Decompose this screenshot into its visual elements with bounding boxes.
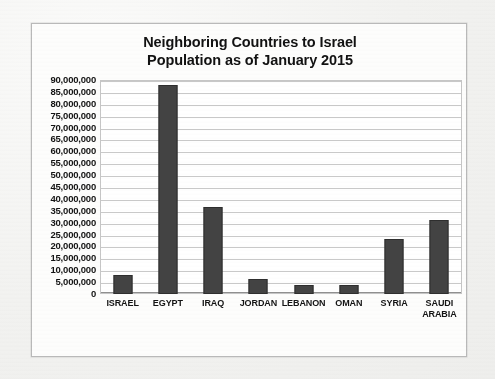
y-axis-tick-label: 25,000,000 xyxy=(32,230,96,240)
y-axis-tick-label: 75,000,000 xyxy=(32,111,96,121)
x-axis-tick-label-line: LEBANON xyxy=(281,298,326,309)
gridline xyxy=(101,224,461,225)
gridline xyxy=(101,236,461,237)
y-axis-tick-label: 5,000,000 xyxy=(32,277,96,287)
x-axis-tick-label-line: JORDAN xyxy=(236,298,281,309)
y-axis-tick-label: 60,000,000 xyxy=(32,147,96,157)
y-axis-tick-label: 85,000,000 xyxy=(32,87,96,97)
x-axis-tick-label-line: OMAN xyxy=(326,298,371,309)
x-axis-tick-label: OMAN xyxy=(326,298,371,309)
gridline xyxy=(101,271,461,272)
chart-frame: Neighboring Countries to Israel Populati… xyxy=(31,23,467,357)
gridline xyxy=(101,176,461,177)
x-axis-tick-label-line: IRAQ xyxy=(191,298,236,309)
gridline xyxy=(101,247,461,248)
y-axis-tick-label: 90,000,000 xyxy=(32,75,96,85)
x-axis-baseline xyxy=(101,292,461,293)
x-axis-tick-label: LEBANON xyxy=(281,298,326,309)
y-axis-tick-label: 35,000,000 xyxy=(32,206,96,216)
gridline xyxy=(101,93,461,94)
gridline xyxy=(101,283,461,284)
y-axis-tick-label: 40,000,000 xyxy=(32,194,96,204)
gridline xyxy=(101,188,461,189)
x-axis-tick-label: JORDAN xyxy=(236,298,281,309)
x-axis-tick-label-line: SYRIA xyxy=(372,298,417,309)
gridline xyxy=(101,259,461,260)
x-axis-tick-label-line: SAUDI xyxy=(417,298,462,309)
gridline xyxy=(101,212,461,213)
gridline xyxy=(101,117,461,118)
y-axis-tick-label: 15,000,000 xyxy=(32,254,96,264)
y-axis-tick-label: 45,000,000 xyxy=(32,182,96,192)
y-axis-tick-label: 65,000,000 xyxy=(32,135,96,145)
y-axis-tick-label: 30,000,000 xyxy=(32,218,96,228)
y-axis-tick-labels: 90,000,00085,000,00080,000,00075,000,000… xyxy=(32,80,96,294)
gridline xyxy=(101,81,461,82)
x-axis-tick-label: ISRAEL xyxy=(100,298,145,309)
y-axis-tick-label: 20,000,000 xyxy=(32,242,96,252)
y-axis-tick-label: 70,000,000 xyxy=(32,123,96,133)
gridline xyxy=(101,152,461,153)
x-axis-tick-label-line: ISRAEL xyxy=(100,298,145,309)
gridline xyxy=(101,129,461,130)
gridline xyxy=(101,105,461,106)
x-axis-tick-label-line: ARABIA xyxy=(417,309,462,320)
y-axis-tick-label: 80,000,000 xyxy=(32,99,96,109)
plot-area xyxy=(100,80,462,294)
x-axis-tick-label: SAUDIARABIA xyxy=(417,298,462,320)
x-axis-category-labels: ISRAELEGYPTIRAQJORDANLEBANONOMANSYRIASAU… xyxy=(100,298,462,334)
y-axis-tick-label: 10,000,000 xyxy=(32,265,96,275)
gridline xyxy=(101,140,461,141)
y-axis-tick-label: 55,000,000 xyxy=(32,158,96,168)
y-axis-tick-label: 50,000,000 xyxy=(32,170,96,180)
x-axis-tick-label-line: EGYPT xyxy=(145,298,190,309)
x-axis-tick-label: SYRIA xyxy=(372,298,417,309)
y-axis-tick-label: 0 xyxy=(32,289,96,299)
plot-wrapper: 90,000,00085,000,00080,000,00075,000,000… xyxy=(32,24,468,358)
x-axis-tick-label: IRAQ xyxy=(191,298,236,309)
gridline xyxy=(101,200,461,201)
x-axis-tick-label: EGYPT xyxy=(145,298,190,309)
gridline xyxy=(101,164,461,165)
